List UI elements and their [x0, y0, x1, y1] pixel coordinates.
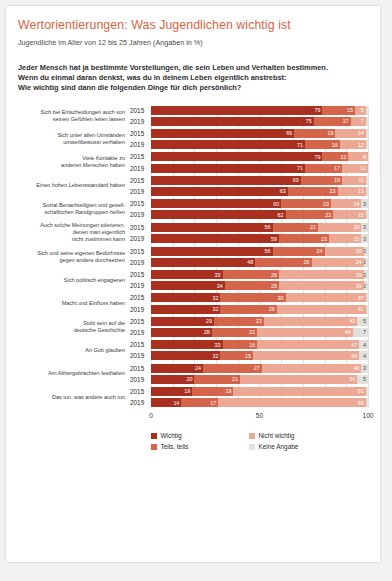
- bar-segment[interactable]: 56: [151, 223, 273, 232]
- bar-segment[interactable]: 21: [212, 328, 258, 337]
- bar-segment[interactable]: 2: [364, 247, 368, 256]
- bar-segment[interactable]: 32: [151, 305, 220, 314]
- bar-segment[interactable]: 26: [220, 305, 276, 314]
- bar-segment[interactable]: 26: [223, 270, 279, 279]
- bar-segment[interactable]: 17: [314, 117, 351, 126]
- bar-segment[interactable]: 2: [364, 281, 368, 290]
- bar-segment[interactable]: 33: [151, 340, 223, 349]
- stacked-bar[interactable]: 5923153: [151, 234, 368, 243]
- bar-segment[interactable]: 60: [151, 199, 281, 208]
- bar-segment[interactable]: 26: [255, 258, 311, 267]
- bar-segment[interactable]: 1: [366, 293, 368, 302]
- bar-segment[interactable]: 16: [223, 340, 258, 349]
- bar-segment[interactable]: 12: [340, 140, 366, 149]
- stacked-bar[interactable]: 1919611: [151, 387, 368, 396]
- bar-segment[interactable]: 71: [151, 140, 305, 149]
- bar-segment[interactable]: 1: [366, 106, 368, 115]
- bar-segment[interactable]: 1: [366, 176, 368, 185]
- legend-item[interactable]: Nicht wichtig: [249, 432, 347, 439]
- stacked-bar[interactable]: 2427463: [151, 364, 368, 373]
- stacked-bar[interactable]: 5624182: [151, 247, 368, 256]
- bar-segment[interactable]: 13: [338, 187, 366, 196]
- stacked-bar[interactable]: 3230371: [151, 293, 368, 302]
- bar-segment[interactable]: 66: [151, 129, 294, 138]
- bar-segment[interactable]: 30: [220, 293, 285, 302]
- stacked-bar[interactable]: 5621203: [151, 223, 368, 232]
- bar-segment[interactable]: 79: [151, 152, 322, 161]
- stacked-bar[interactable]: 2021545: [151, 375, 368, 384]
- stacked-bar[interactable]: 791551: [151, 106, 368, 115]
- bar-segment[interactable]: 79: [151, 106, 322, 115]
- bar-segment[interactable]: 47: [257, 340, 359, 349]
- bar-segment[interactable]: 24: [151, 364, 203, 373]
- stacked-bar[interactable]: 7116121: [151, 140, 368, 149]
- bar-segment[interactable]: 16: [305, 140, 340, 149]
- stacked-bar[interactable]: 3425392: [151, 281, 368, 290]
- bar-segment[interactable]: 21: [273, 223, 319, 232]
- bar-segment[interactable]: 19: [151, 387, 192, 396]
- bar-segment[interactable]: 1: [366, 305, 368, 314]
- legend-item[interactable]: Teils, teils: [151, 443, 249, 450]
- bar-segment[interactable]: 19: [301, 176, 342, 185]
- bar-segment[interactable]: 33: [151, 270, 223, 279]
- bar-segment[interactable]: 69: [151, 176, 301, 185]
- bar-segment[interactable]: 22: [286, 210, 334, 219]
- stacked-bar[interactable]: 711712: [151, 164, 368, 173]
- bar-segment[interactable]: 59: [151, 234, 279, 243]
- bar-segment[interactable]: 23: [279, 234, 329, 243]
- stacked-bar[interactable]: 3316474: [151, 340, 368, 349]
- bar-segment[interactable]: 12: [342, 164, 368, 173]
- bar-segment[interactable]: 14: [331, 199, 361, 208]
- bar-segment[interactable]: 41: [277, 305, 366, 314]
- bar-segment[interactable]: 3: [361, 234, 368, 243]
- stacked-bar[interactable]: 2821447: [151, 328, 368, 337]
- bar-segment[interactable]: 3: [361, 223, 368, 232]
- bar-segment[interactable]: 71: [151, 164, 305, 173]
- bar-segment[interactable]: 20: [151, 375, 194, 384]
- bar-segment[interactable]: 1: [366, 398, 368, 407]
- bar-segment[interactable]: 39: [279, 281, 364, 290]
- stacked-bar[interactable]: 79129: [151, 152, 368, 161]
- bar-segment[interactable]: 11: [342, 176, 366, 185]
- bar-segment[interactable]: 3: [361, 199, 368, 208]
- bar-segment[interactable]: 32: [151, 293, 220, 302]
- bar-segment[interactable]: 7: [351, 117, 366, 126]
- bar-segment[interactable]: 24: [273, 247, 325, 256]
- bar-segment[interactable]: 44: [257, 328, 352, 337]
- legend-item[interactable]: Keine Angabe: [249, 443, 347, 450]
- bar-segment[interactable]: 12: [322, 152, 348, 161]
- bar-segment[interactable]: 56: [151, 247, 273, 256]
- bar-segment[interactable]: 1: [366, 210, 368, 219]
- bar-segment[interactable]: 2: [364, 258, 368, 267]
- bar-segment[interactable]: 19: [192, 387, 233, 396]
- bar-segment[interactable]: 3: [361, 364, 368, 373]
- bar-segment[interactable]: 63: [151, 187, 288, 196]
- bar-segment[interactable]: 43: [264, 317, 357, 326]
- bar-segment[interactable]: 20: [318, 223, 361, 232]
- bar-segment[interactable]: 23: [214, 317, 264, 326]
- bar-segment[interactable]: 15: [322, 106, 355, 115]
- bar-segment[interactable]: 4: [359, 351, 368, 360]
- bar-segment[interactable]: 1: [366, 140, 368, 149]
- stacked-bar[interactable]: 6919111: [151, 176, 368, 185]
- bar-segment[interactable]: 23: [281, 199, 331, 208]
- stacked-bar[interactable]: 751771: [151, 117, 368, 126]
- stacked-bar[interactable]: 6323131: [151, 187, 368, 196]
- stacked-bar[interactable]: 6222151: [151, 210, 368, 219]
- stacked-bar[interactable]: 3226411: [151, 305, 368, 314]
- bar-segment[interactable]: 1: [366, 117, 368, 126]
- bar-segment[interactable]: 7: [353, 328, 368, 337]
- bar-segment[interactable]: 62: [151, 210, 286, 219]
- bar-segment[interactable]: 18: [325, 247, 364, 256]
- stacked-bar[interactable]: 3326392: [151, 270, 368, 279]
- bar-segment[interactable]: 32: [151, 351, 220, 360]
- bar-segment[interactable]: 1: [366, 187, 368, 196]
- bar-segment[interactable]: 28: [151, 328, 212, 337]
- bar-segment[interactable]: 5: [357, 375, 368, 384]
- stacked-bar[interactable]: 4826242: [151, 258, 368, 267]
- bar-segment[interactable]: 15: [329, 234, 362, 243]
- bar-segment[interactable]: 17: [181, 398, 218, 407]
- bar-segment[interactable]: 54: [240, 375, 357, 384]
- bar-segment[interactable]: 49: [253, 351, 359, 360]
- bar-segment[interactable]: 19: [294, 129, 335, 138]
